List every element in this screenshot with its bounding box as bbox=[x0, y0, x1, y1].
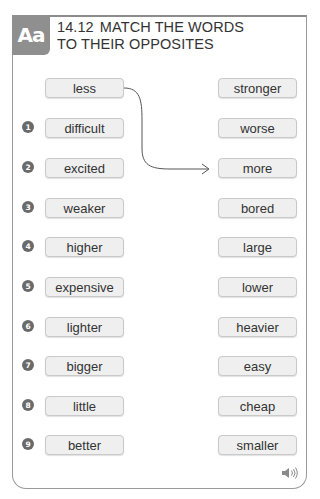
example-match-arrow bbox=[0, 0, 320, 499]
speaker-icon[interactable] bbox=[281, 466, 299, 480]
